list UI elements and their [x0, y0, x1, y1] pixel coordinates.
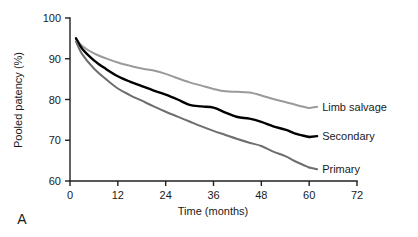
y-axis-ticks: 60708090100	[43, 12, 70, 187]
panel-label: A	[17, 211, 27, 227]
y-tick-label: 80	[49, 94, 61, 106]
series-label-limb-salvage: Limb salvage	[322, 101, 387, 113]
leader-line-secondary	[309, 136, 317, 137]
x-tick-label: 72	[351, 189, 363, 201]
chart-axes	[70, 18, 357, 181]
x-axis-ticks: 0122436486072	[67, 181, 363, 201]
x-tick-label: 12	[112, 189, 124, 201]
series-lines	[76, 38, 309, 167]
x-tick-label: 60	[303, 189, 315, 201]
y-tick-label: 70	[49, 134, 61, 146]
figure-panel-a: 60708090100 0122436486072 Limb salvageSe…	[0, 0, 418, 237]
y-tick-label: 100	[43, 12, 61, 24]
leader-line-primary	[309, 168, 317, 170]
y-axis-title: Pooled patency (%)	[12, 52, 24, 148]
series-leader-lines	[309, 107, 317, 169]
series-labels: Limb salvageSecondaryPrimary	[322, 101, 387, 175]
x-tick-label: 48	[255, 189, 267, 201]
y-tick-label: 60	[49, 175, 61, 187]
y-tick-label: 90	[49, 53, 61, 65]
x-axis-title: Time (months)	[178, 205, 249, 217]
pooled-patency-line-chart: 60708090100 0122436486072 Limb salvageSe…	[0, 0, 418, 237]
x-tick-label: 0	[67, 189, 73, 201]
leader-line-limb-salvage	[309, 107, 317, 108]
series-label-secondary: Secondary	[322, 130, 375, 142]
series-label-primary: Primary	[322, 163, 360, 175]
x-tick-label: 36	[207, 189, 219, 201]
x-tick-label: 24	[160, 189, 172, 201]
